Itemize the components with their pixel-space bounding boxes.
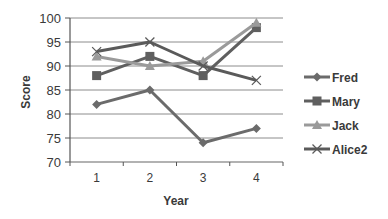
legend-item-fred: Fred	[304, 71, 358, 85]
diamond-marker-icon	[313, 73, 322, 82]
y-axis-label: Score	[19, 75, 33, 109]
legend-label: Alice2	[332, 143, 368, 157]
square-marker-icon	[199, 71, 208, 80]
y-axis-ticks: 707580859095100	[39, 11, 70, 170]
series-line	[97, 28, 257, 76]
square-marker-icon	[145, 52, 154, 61]
x-axis-ticks: 1234	[70, 162, 283, 185]
series-line	[97, 23, 257, 66]
square-marker-icon	[92, 71, 101, 80]
diamond-marker-icon	[252, 124, 261, 133]
y-tick-label: 90	[47, 59, 61, 74]
legend-label: Mary	[332, 95, 360, 109]
series-line	[97, 90, 257, 143]
y-tick-label: 100	[39, 11, 61, 26]
y-tick-label: 80	[47, 107, 61, 122]
y-tick-label: 85	[47, 83, 61, 98]
y-tick-label: 95	[47, 35, 61, 50]
line-chart: 707580859095100 1234 Score Year FredMary…	[0, 0, 388, 219]
x-axis-label: Year	[163, 194, 189, 208]
series-jack	[92, 18, 262, 70]
x-tick-label: 1	[93, 171, 100, 185]
legend-item-mary: Mary	[304, 95, 360, 109]
square-marker-icon	[313, 97, 322, 106]
x-tick-label: 4	[253, 171, 260, 185]
x-tick-label: 2	[147, 171, 154, 185]
legend-item-alice2: Alice2	[304, 143, 368, 157]
legend-label: Fred	[332, 71, 358, 85]
y-tick-label: 75	[47, 131, 61, 146]
legend-item-jack: Jack	[304, 119, 359, 133]
triangle-marker-icon	[251, 18, 261, 27]
diamond-marker-icon	[92, 100, 101, 109]
legend-label: Jack	[332, 119, 359, 133]
x-tick-label: 3	[200, 171, 207, 185]
legend: FredMaryJackAlice2	[304, 71, 368, 157]
y-tick-label: 70	[47, 155, 61, 170]
series-lines	[92, 18, 262, 148]
series-mary	[92, 23, 261, 80]
chart-svg: 707580859095100 1234 Score Year FredMary…	[0, 0, 388, 219]
